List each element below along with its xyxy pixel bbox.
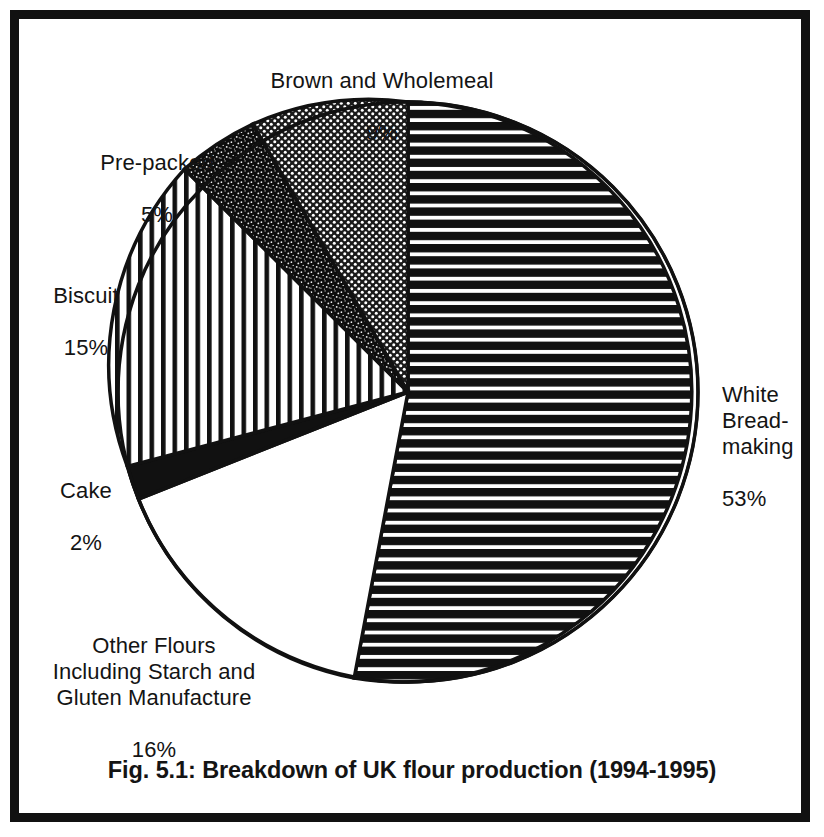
slice-label-biscuit-name: Biscuit [10, 283, 162, 309]
slice-label-biscuit-value: 15% [10, 335, 162, 361]
slice-label-biscuit: Biscuit 15% [10, 257, 162, 387]
slice-label-pre-packed-value: 5% [48, 202, 266, 228]
slice-label-white-breadmaking: White Bread- making 53% [722, 356, 818, 538]
slice-label-white-breadmaking-value: 53% [722, 486, 818, 512]
figure-caption: Fig. 5.1: Breakdown of UK flour producti… [28, 757, 796, 784]
slice-label-brown-wholemeal-name: Brown and Wholemeal [196, 68, 568, 94]
figure-content: Brown and Wholemeal 9% Pre-packed 5% Bis… [0, 0, 824, 837]
slice-label-pre-packed-name: Pre-packed [48, 150, 266, 176]
slice-label-pre-packed: Pre-packed 5% [48, 124, 266, 254]
figure-root: Brown and Wholemeal 9% Pre-packed 5% Bis… [0, 0, 824, 837]
slice-label-white-breadmaking-name: White Bread- making [722, 382, 818, 460]
slice-label-cake-value: 2% [10, 530, 162, 556]
slice-label-other-flours-name: Other Flours Including Starch and Gluten… [18, 633, 290, 711]
slice-label-cake-name: Cake [10, 478, 162, 504]
slice-label-cake: Cake 2% [10, 452, 162, 582]
pie-chart-area: Brown and Wholemeal 9% Pre-packed 5% Bis… [0, 0, 824, 760]
